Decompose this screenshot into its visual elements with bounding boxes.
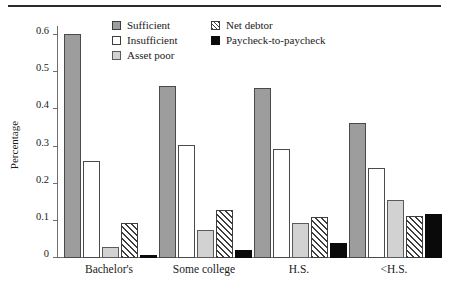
bar-hs-assetpoor	[292, 223, 309, 258]
y-tick-mark	[53, 108, 57, 109]
bar-less-than-hs-sufficient	[349, 123, 366, 258]
legend-swatch-asset-poor-icon	[112, 51, 121, 60]
bar-some-college-assetpoor	[197, 230, 214, 258]
y-tick-mark	[53, 220, 57, 221]
bar-group-less-than-hs	[349, 26, 437, 258]
bar-bachelors-sufficient	[64, 34, 81, 258]
legend-label-net-debtor: Net debtor	[226, 20, 273, 31]
bar-bachelors-netdebtor	[121, 223, 138, 258]
legend-swatch-insufficient-icon	[112, 36, 121, 45]
y-tick-label: 0.1	[36, 212, 49, 223]
bar-some-college-insufficient	[178, 145, 195, 258]
bar-less-than-hs-assetpoor	[387, 200, 404, 258]
legend-column-left: Sufficient Insufficient Asset poor	[112, 18, 178, 63]
bar-hs-paycheck	[330, 243, 347, 258]
bar-bachelors-assetpoor	[102, 247, 119, 258]
x-tick-label-hs: H.S.	[254, 263, 344, 275]
y-tick-label: 0.3	[36, 138, 49, 149]
legend-label-asset-poor: Asset poor	[127, 50, 174, 61]
bar-hs-sufficient	[254, 88, 271, 258]
legend-column-right: Net debtor Paycheck-to-paycheck	[211, 18, 326, 48]
y-tick-label: 0.6	[36, 26, 49, 37]
legend-item-sufficient: Sufficient	[112, 18, 178, 32]
legend-item-asset-poor: Asset poor	[112, 48, 178, 62]
bar-hs-insufficient	[273, 149, 290, 258]
x-tick-label-bachelors: Bachelor's	[64, 263, 154, 275]
bar-hs-netdebtor	[311, 217, 328, 258]
bar-chart-figure: Percentage 0.6 0.5 0.4 0.3 0.2 0.1 0	[0, 0, 449, 293]
legend-item-insufficient: Insufficient	[112, 33, 178, 47]
bar-some-college-sufficient	[159, 86, 176, 258]
y-tick-label: 0.5	[36, 63, 49, 74]
legend-item-paycheck-to-paycheck: Paycheck-to-paycheck	[211, 33, 326, 47]
legend-label-insufficient: Insufficient	[127, 35, 178, 46]
bar-less-than-hs-netdebtor	[406, 216, 423, 258]
legend-swatch-sufficient-icon	[112, 21, 121, 30]
y-tick-label: 0	[44, 249, 49, 260]
x-tick-label-some-college: Some college	[159, 263, 249, 275]
bar-bachelors-paycheck	[140, 255, 157, 258]
bar-some-college-netdebtor	[216, 210, 233, 258]
y-tick-mark	[53, 146, 57, 147]
bar-some-college-paycheck	[235, 250, 252, 258]
bar-less-than-hs-insufficient	[368, 168, 385, 258]
top-divider-rule	[8, 5, 441, 7]
y-tick-mark	[53, 34, 57, 35]
legend-swatch-paycheck-to-paycheck-icon	[211, 36, 220, 45]
y-tick-mark	[53, 183, 57, 184]
y-tick-mark	[53, 71, 57, 72]
legend-swatch-net-debtor-icon	[211, 21, 220, 30]
legend-label-sufficient: Sufficient	[127, 20, 170, 31]
bar-less-than-hs-paycheck	[425, 214, 442, 258]
y-axis-title-text: Percentage	[8, 121, 20, 169]
y-axis-title: Percentage	[4, 90, 24, 200]
bar-bachelors-insufficient	[83, 161, 100, 258]
y-tick-label: 0.2	[36, 175, 49, 186]
legend-label-paycheck-to-paycheck: Paycheck-to-paycheck	[226, 35, 326, 46]
bar-group-hs	[254, 26, 342, 258]
x-tick-label-less-than-hs: <H.S.	[349, 263, 439, 275]
y-tick-mark	[53, 257, 57, 258]
legend-item-net-debtor: Net debtor	[211, 18, 326, 32]
y-tick-label: 0.4	[36, 100, 49, 111]
